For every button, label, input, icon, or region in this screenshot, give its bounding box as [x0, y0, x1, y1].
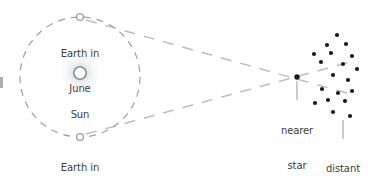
nearer-star-dot — [294, 74, 299, 79]
distant-star — [326, 98, 330, 102]
nearer-star-group — [294, 74, 299, 100]
distant-star — [320, 87, 324, 91]
label-nearer-star: nearer star — [273, 102, 321, 176]
label-sun-line1: Sun — [54, 109, 106, 121]
earth-june-marker — [77, 14, 84, 21]
distant-star — [341, 62, 345, 66]
label-earth-in-december-line1: Earth in — [40, 162, 120, 174]
label-distant-stars: distant stars — [318, 140, 368, 176]
label-nearer-star-line1: nearer — [273, 125, 321, 137]
distant-star — [331, 73, 335, 77]
label-sun: Sun — [54, 86, 106, 144]
distant-star — [325, 43, 329, 47]
parallax-diagram: Earth in June Sun Earth in December near… — [0, 0, 368, 176]
label-distant-stars-line1: distant — [318, 163, 368, 175]
distant-star — [343, 99, 347, 103]
distant-star — [346, 78, 350, 82]
distant-star — [355, 67, 359, 71]
distant-star — [344, 42, 348, 46]
label-nearer-star-line2: star — [273, 160, 321, 172]
distant-star — [329, 51, 333, 55]
distant-star — [348, 114, 352, 118]
label-earth-in-june-line1: Earth in — [44, 48, 116, 60]
distant-star — [331, 110, 335, 114]
distant-star — [350, 54, 354, 58]
sight-line-from-june — [86, 20, 354, 95]
distant-star — [335, 33, 339, 37]
distant-star — [319, 60, 323, 64]
clipped-edge-glyph — [0, 77, 3, 88]
label-earth-in-december: Earth in December — [40, 139, 120, 176]
distant-star — [336, 91, 340, 95]
distant-star — [312, 52, 316, 56]
distant-star — [350, 89, 354, 93]
